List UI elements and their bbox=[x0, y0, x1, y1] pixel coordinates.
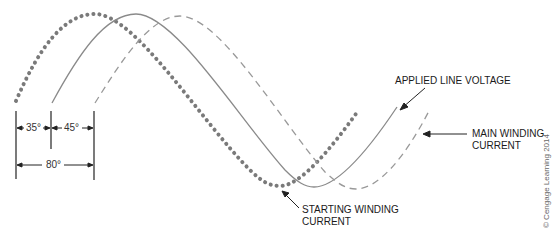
dimension-80-label: 80° bbox=[45, 159, 62, 170]
applied-line-voltage-curve bbox=[52, 14, 397, 187]
main-winding-current-curve bbox=[95, 16, 430, 189]
starting-winding-label-line2: CURRENT bbox=[302, 216, 351, 228]
starting-winding-current-curve bbox=[16, 14, 358, 186]
copyright-notice: © Cengage Learning 2014 bbox=[542, 134, 551, 228]
applied-line-voltage-label: APPLIED LINE VOLTAGE bbox=[395, 75, 511, 87]
main-winding-label-line2: CURRENT bbox=[472, 140, 521, 152]
dimension-35-label: 35° bbox=[25, 122, 42, 133]
starting-winding-label-line1: STARTING WINDING bbox=[302, 204, 399, 216]
waveform-diagram bbox=[0, 0, 558, 238]
dimension-45-label: 45° bbox=[63, 122, 80, 133]
main-winding-label-line1: MAIN WINDING bbox=[472, 128, 544, 140]
